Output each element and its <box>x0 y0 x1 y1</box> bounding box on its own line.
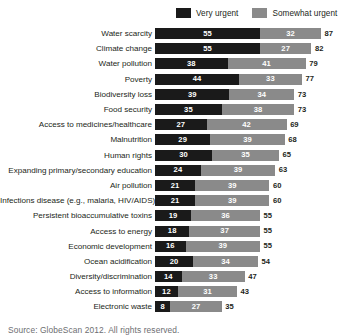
row-label: Ocean acidification <box>0 257 155 266</box>
chart-row: Water scarcity553287 <box>0 26 356 41</box>
bar-area: 82735 <box>155 299 356 314</box>
bar-segment-value: 16 <box>166 242 175 250</box>
stacked-bar: 2742 <box>155 119 287 130</box>
bar-area: 443377 <box>155 72 356 87</box>
chart-row: Food security353873 <box>0 102 356 117</box>
bar-segment-very-urgent: 12 <box>155 286 178 297</box>
chart-row: Air pollution213960 <box>0 178 356 193</box>
stacked-bar: 2439 <box>155 165 275 176</box>
bar-segment-value: 12 <box>162 288 171 296</box>
bar-total-value: 77 <box>305 75 313 83</box>
bar-segment-very-urgent: 18 <box>155 226 189 237</box>
chart-row: Expanding primary/secondary education243… <box>0 163 356 178</box>
bar-total-value: 68 <box>288 136 296 144</box>
bar-segment-value: 38 <box>187 60 196 68</box>
bar-area: 203454 <box>155 254 356 269</box>
chart-rows: Water scarcity553287Climate change552782… <box>0 26 356 315</box>
bar-area: 193655 <box>155 208 356 223</box>
bar-segment-value: 27 <box>176 121 185 129</box>
bar-segment-value: 36 <box>221 212 230 220</box>
bar-area: 274269 <box>155 117 356 132</box>
bar-total-value: 54 <box>262 258 270 266</box>
bar-segment-value: 38 <box>254 106 263 114</box>
bar-segment-somewhat-urgent: 39 <box>210 134 284 145</box>
stacked-bar: 2939 <box>155 134 285 145</box>
bar-segment-value: 27 <box>281 45 290 53</box>
stacked-bar: 2034 <box>155 256 258 267</box>
bar-segment-somewhat-urgent: 32 <box>260 28 321 39</box>
bar-segment-value: 34 <box>221 258 230 266</box>
bar-segment-somewhat-urgent: 39 <box>186 241 260 252</box>
bar-segment-value: 27 <box>192 303 201 311</box>
bar-segment-value: 29 <box>178 136 187 144</box>
bar-segment-very-urgent: 21 <box>155 195 195 206</box>
chart-row: Diversity/discrimination143347 <box>0 269 356 284</box>
bar-segment-value: 39 <box>228 197 237 205</box>
bar-segment-value: 55 <box>203 30 212 38</box>
stacked-bar: 2139 <box>155 195 269 206</box>
bar-area: 303565 <box>155 148 356 163</box>
bar-segment-somewhat-urgent: 35 <box>212 150 279 161</box>
row-label: Water scarcity <box>0 29 155 38</box>
row-label: Economic development <box>0 242 155 251</box>
stacked-bar: 3841 <box>155 58 306 69</box>
stacked-bar: 1231 <box>155 286 237 297</box>
bar-area: 183755 <box>155 223 356 238</box>
stacked-bar: 1433 <box>155 271 245 282</box>
chart-row: Access to information123143 <box>0 284 356 299</box>
stacked-bar: 1837 <box>155 226 260 237</box>
chart-row: Persistent bioaccumulative toxins193655 <box>0 208 356 223</box>
row-label: Food security <box>0 105 155 114</box>
bar-segment-value: 39 <box>234 166 243 174</box>
stacked-bar: 5532 <box>155 28 321 39</box>
bar-segment-very-urgent: 29 <box>155 134 210 145</box>
bar-segment-very-urgent: 38 <box>155 58 228 69</box>
bar-segment-value: 55 <box>203 45 212 53</box>
bar-total-value: 87 <box>324 30 332 38</box>
bar-total-value: 35 <box>225 303 233 311</box>
row-label: Access to energy <box>0 227 155 236</box>
bar-segment-value: 34 <box>258 91 267 99</box>
bar-area: 213960 <box>155 178 356 193</box>
bar-segment-value: 31 <box>203 288 212 296</box>
bar-total-value: 65 <box>283 151 291 159</box>
bar-segment-value: 42 <box>242 121 251 129</box>
bar-total-value: 55 <box>263 227 271 235</box>
bar-segment-very-urgent: 30 <box>155 150 212 161</box>
chart-row: Water pollution384179 <box>0 56 356 71</box>
bar-segment-somewhat-urgent: 34 <box>193 256 258 267</box>
bar-segment-somewhat-urgent: 37 <box>189 226 260 237</box>
bar-segment-value: 33 <box>266 75 275 83</box>
bar-total-value: 55 <box>263 242 271 250</box>
bar-area: 293968 <box>155 132 356 147</box>
bar-total-value: 69 <box>290 121 298 129</box>
bar-segment-very-urgent: 35 <box>155 104 222 115</box>
bar-segment-very-urgent: 20 <box>155 256 193 267</box>
row-label: Water pollution <box>0 59 155 68</box>
legend-label: Very urgent <box>196 9 238 18</box>
stacked-bar: 3538 <box>155 104 294 115</box>
bar-segment-value: 39 <box>243 136 252 144</box>
stacked-bar: 3035 <box>155 150 279 161</box>
chart-row: Infections disease (e.g., malaria, HIV/A… <box>0 193 356 208</box>
row-label: Access to information <box>0 287 155 296</box>
bar-total-value: 60 <box>273 182 281 190</box>
bar-segment-very-urgent: 55 <box>155 28 260 39</box>
bar-total-value: 55 <box>263 212 271 220</box>
bar-segment-very-urgent: 14 <box>155 271 182 282</box>
stacked-bar: 1936 <box>155 210 260 221</box>
bar-segment-somewhat-urgent: 31 <box>178 286 237 297</box>
bar-segment-value: 24 <box>174 166 183 174</box>
row-label: Diversity/discrimination <box>0 272 155 281</box>
row-label: Poverty <box>0 75 155 84</box>
bar-segment-value: 14 <box>164 273 173 281</box>
chart-row: Ocean acidification203454 <box>0 254 356 269</box>
row-label: Expanding primary/secondary education <box>0 166 155 175</box>
row-label: Infections disease (e.g., malaria, HIV/A… <box>0 196 155 205</box>
bar-total-value: 60 <box>273 197 281 205</box>
bar-area: 552782 <box>155 41 356 56</box>
legend-label: Somewhat urgent <box>272 9 337 18</box>
bar-total-value: 43 <box>241 288 249 296</box>
stacked-bar-chart: Very urgentSomewhat urgent Water scarcit… <box>0 0 356 335</box>
row-label: Electronic waste <box>0 302 155 311</box>
